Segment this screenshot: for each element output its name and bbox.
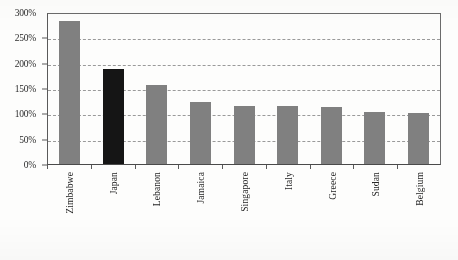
- bar-cell-lebanon: [135, 14, 179, 164]
- x-axis-label-greece: Greece: [326, 172, 337, 200]
- figure-container: 300% 250% 200% 150% 100% 50% 0%: [0, 0, 458, 260]
- x-label-cell-japan: Japan: [91, 170, 135, 244]
- x-label-cell-singapore: Singapore: [222, 170, 266, 244]
- bar-greece[interactable]: [321, 107, 342, 164]
- bar-cell-japan: [92, 14, 136, 164]
- y-axis: 300% 250% 200% 150% 100% 50% 0%: [0, 0, 45, 178]
- x-label-cell-jamaica: Jamaica: [178, 170, 222, 244]
- plot-area: [47, 13, 441, 165]
- x-label-cell-italy: Italy: [266, 170, 310, 244]
- x-label-cell-belgium: Belgium: [397, 170, 441, 244]
- x-axis-tick-mark: [47, 165, 48, 169]
- x-axis-label-jamaica: Jamaica: [195, 172, 206, 204]
- x-axis-tick-mark: [353, 165, 354, 169]
- x-axis-tick-mark: [397, 165, 398, 169]
- bar-belgium[interactable]: [408, 113, 429, 164]
- x-label-cell-greece: Greece: [310, 170, 354, 244]
- x-label-cell-zimbabwe: Zimbabwe: [47, 170, 91, 244]
- bar-series: [48, 14, 440, 164]
- bar-sudan[interactable]: [364, 112, 385, 164]
- x-axis-tick-mark: [310, 165, 311, 169]
- x-axis-label-singapore: Singapore: [239, 172, 250, 212]
- bar-italy[interactable]: [277, 106, 298, 164]
- y-axis-label-50: 50%: [19, 135, 36, 145]
- bar-cell-singapore: [222, 14, 266, 164]
- x-axis-label-sudan: Sudan: [370, 172, 381, 196]
- y-axis-label-200: 200%: [15, 59, 36, 69]
- bar-cell-belgium: [397, 14, 441, 164]
- x-axis-label-lebanon: Lebanon: [151, 172, 162, 206]
- x-axis-tick-mark: [135, 165, 136, 169]
- bar-cell-zimbabwe: [48, 14, 92, 164]
- y-axis-label-0: 0%: [24, 160, 36, 170]
- x-axis-label-italy: Italy: [282, 172, 293, 190]
- x-axis-tick-mark: [91, 165, 92, 169]
- bar-cell-jamaica: [179, 14, 223, 164]
- x-axis-label-zimbabwe: Zimbabwe: [63, 172, 74, 214]
- y-axis-label-300: 300%: [15, 8, 36, 18]
- bar-cell-italy: [266, 14, 310, 164]
- x-axis-tick-mark: [222, 165, 223, 169]
- y-axis-label-250: 250%: [15, 33, 36, 43]
- bar-lebanon[interactable]: [146, 85, 167, 164]
- bar-zimbabwe[interactable]: [59, 21, 80, 164]
- bar-cell-greece: [309, 14, 353, 164]
- bar-japan[interactable]: [103, 69, 124, 164]
- bar-cell-sudan: [353, 14, 397, 164]
- x-axis-label-belgium: Belgium: [414, 172, 425, 206]
- bar-jamaica[interactable]: [190, 102, 211, 164]
- x-label-cell-sudan: Sudan: [353, 170, 397, 244]
- bar-singapore[interactable]: [234, 106, 255, 164]
- x-axis-tick-mark: [266, 165, 267, 169]
- y-axis-label-150: 150%: [15, 84, 36, 94]
- x-axis-tick-mark: [178, 165, 179, 169]
- x-axis-labels: Zimbabwe Japan Lebanon Jamaica Singapore…: [47, 170, 441, 244]
- x-label-cell-lebanon: Lebanon: [135, 170, 179, 244]
- x-axis-label-japan: Japan: [107, 172, 118, 194]
- y-axis-label-100: 100%: [15, 109, 36, 119]
- figure-caption: [8, 249, 308, 260]
